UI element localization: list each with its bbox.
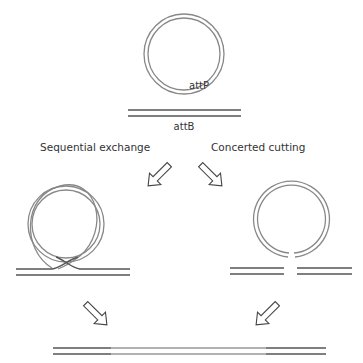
- sequential-exchange-label: Sequential exchange: [40, 141, 150, 153]
- recombination-diagram: attP attB Sequential exchange Concerted …: [0, 0, 363, 363]
- attb-linear-dna: [128, 110, 241, 116]
- arrow-down-left-icon: [250, 298, 283, 331]
- attp-label: attP: [189, 80, 209, 91]
- arrow-down-right-icon: [195, 159, 228, 192]
- arrow-down-right-icon: [80, 298, 113, 331]
- sequential-exchange-intermediate: [16, 185, 130, 275]
- attb-label: attB: [174, 121, 195, 132]
- concerted-cutting-label: Concerted cutting: [211, 141, 305, 153]
- concerted-cutting-intermediate: [230, 181, 352, 274]
- integrated-product-dna: [53, 348, 326, 354]
- top-plasmid: [144, 14, 224, 94]
- arrow-down-left-icon: [142, 159, 175, 192]
